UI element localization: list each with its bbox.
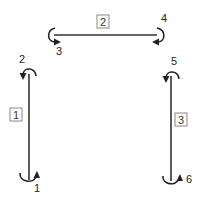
moment-arrow-2: 2 [19,53,36,80]
member-2-label: 2 [100,16,106,28]
arrowhead-icon [34,171,41,178]
moment-5-label: 5 [171,55,177,67]
arrowhead-icon [152,39,159,46]
moment-4-label: 4 [161,12,167,24]
moment-1-label: 1 [34,182,40,194]
member-3-label: 3 [178,114,184,126]
moment-6-label: 6 [186,173,192,185]
moment-arrow-1: 1 [20,171,40,194]
moment-3-label: 3 [56,45,62,57]
member-3-label-box: 3 [175,113,187,126]
member-1-label-box: 1 [10,108,22,121]
member-2-label-box: 2 [97,15,109,28]
moment-2-label: 2 [19,53,25,65]
frame-diagram: 2 1 3 3 4 2 1 5 [0,0,204,201]
moment-1-arc [20,173,36,181]
arrowhead-icon [20,73,27,80]
moment-arrow-3: 3 [49,28,63,57]
member-1-label: 1 [13,109,19,121]
moment-arrow-6: 6 [163,173,192,185]
arrowhead-icon [163,76,170,83]
moment-arrow-4: 4 [152,12,167,46]
arrowhead-icon [177,174,184,181]
